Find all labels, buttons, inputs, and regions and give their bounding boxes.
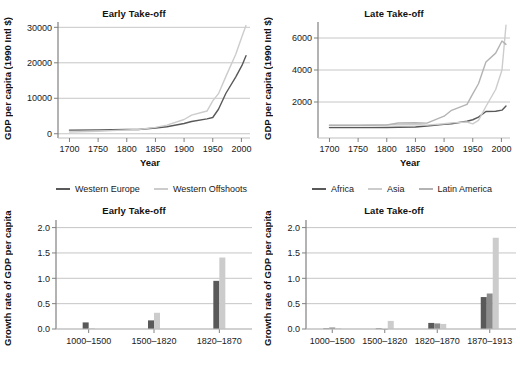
svg-text:30000: 30000: [27, 23, 52, 33]
svg-text:1850: 1850: [145, 144, 165, 154]
legend-swatch-icon: [56, 188, 70, 190]
svg-text:0.5: 0.5: [37, 299, 50, 309]
svg-text:1950: 1950: [203, 144, 223, 154]
legend-top-right-item-1[interactable]: Asia: [368, 184, 405, 194]
svg-text:1950: 1950: [463, 144, 483, 154]
svg-text:1900: 1900: [434, 144, 454, 154]
legend-label: Latin America: [438, 184, 493, 194]
legend-top-right-item-2[interactable]: Latin America: [419, 184, 493, 194]
legend-top-left-item-1[interactable]: Western Offshoots: [154, 184, 247, 194]
svg-text:1870–1913: 1870–1913: [467, 336, 512, 346]
svg-text:2.0: 2.0: [287, 223, 300, 233]
svg-text:1.0: 1.0: [37, 274, 50, 284]
svg-text:1900: 1900: [174, 144, 194, 154]
panel-bottom-right: Late Take-off Growth rate of GDP per cap…: [260, 198, 520, 369]
plot-area-bottom-left: 0.00.51.01.52.01000–15001500–18201820–18…: [0, 198, 260, 369]
svg-text:1800: 1800: [117, 144, 137, 154]
plot-area-top-left: 0100002000030000170017501800185019001950…: [0, 0, 260, 180]
svg-text:20000: 20000: [27, 58, 52, 68]
legend-label: Western Europe: [75, 184, 140, 194]
legend-swatch-icon: [419, 188, 433, 190]
svg-text:6000: 6000: [292, 33, 312, 43]
figure-root: Early Take-off GDP per capita (1990 Intl…: [0, 0, 520, 369]
legend-swatch-icon: [154, 188, 168, 190]
svg-text:1000–1500: 1000–1500: [66, 336, 111, 346]
legend-label: Asia: [387, 184, 405, 194]
legend-swatch-icon: [368, 188, 382, 190]
panel-bottom-left: Early Take-off Growth rate of GDP per ca…: [0, 198, 260, 369]
y-axis-label-top-right: GDP per capita (1990 Intl $): [262, 14, 273, 144]
svg-text:2000: 2000: [491, 144, 511, 154]
svg-text:0: 0: [47, 129, 52, 139]
svg-text:1820–1870: 1820–1870: [197, 336, 242, 346]
svg-text:1700: 1700: [319, 144, 339, 154]
svg-text:1000–1500: 1000–1500: [310, 336, 355, 346]
x-axis-label-top-left: Year: [50, 157, 250, 168]
svg-text:2000: 2000: [231, 144, 251, 154]
svg-text:1500–1820: 1500–1820: [131, 336, 176, 346]
y-axis-label-bottom-left: Growth rate of GDP per capita: [2, 206, 13, 351]
plot-area-top-right: 2000400060001700175018001850190019502000: [260, 0, 520, 180]
svg-text:1750: 1750: [348, 144, 368, 154]
panel-top-left: Early Take-off GDP per capita (1990 Intl…: [0, 0, 260, 180]
legend-top-right-item-0[interactable]: Africa: [312, 184, 354, 194]
legend-top-right: AfricaAsiaLatin America: [312, 182, 506, 196]
svg-text:1750: 1750: [88, 144, 108, 154]
svg-text:0.5: 0.5: [287, 299, 300, 309]
svg-text:2000: 2000: [292, 97, 312, 107]
svg-text:1.5: 1.5: [287, 248, 300, 258]
svg-text:0.0: 0.0: [287, 324, 300, 334]
svg-text:1800: 1800: [377, 144, 397, 154]
panel-top-right: Late Take-off GDP per capita (1990 Intl …: [260, 0, 520, 180]
panel-title-bottom-left: Early Take-off: [18, 205, 250, 216]
svg-text:1700: 1700: [59, 144, 79, 154]
panel-title-top-left: Early Take-off: [18, 8, 250, 19]
legend-top-left: Western EuropeWestern Offshoots: [56, 182, 261, 196]
y-axis-label-bottom-right: Growth rate of GDP per capita: [262, 206, 273, 351]
legend-label: Western Offshoots: [173, 184, 247, 194]
panel-title-top-right: Late Take-off: [278, 8, 510, 19]
svg-text:10000: 10000: [27, 93, 52, 103]
legend-label: Africa: [331, 184, 354, 194]
svg-text:0.0: 0.0: [37, 324, 50, 334]
svg-text:1820–1870: 1820–1870: [415, 336, 460, 346]
x-axis-label-top-right: Year: [310, 157, 510, 168]
plot-area-bottom-right: 0.00.51.01.52.01000–15001500–18201820–18…: [260, 198, 520, 369]
panel-title-bottom-right: Late Take-off: [278, 205, 510, 216]
svg-text:4000: 4000: [292, 65, 312, 75]
y-axis-label-top-left: GDP per capita (1990 Intl $): [2, 14, 13, 144]
svg-text:1.5: 1.5: [37, 248, 50, 258]
svg-text:1.0: 1.0: [287, 274, 300, 284]
svg-text:2.0: 2.0: [37, 223, 50, 233]
legend-top-left-item-0[interactable]: Western Europe: [56, 184, 140, 194]
legend-swatch-icon: [312, 188, 326, 190]
svg-text:1500–1820: 1500–1820: [362, 336, 407, 346]
svg-text:1850: 1850: [405, 144, 425, 154]
